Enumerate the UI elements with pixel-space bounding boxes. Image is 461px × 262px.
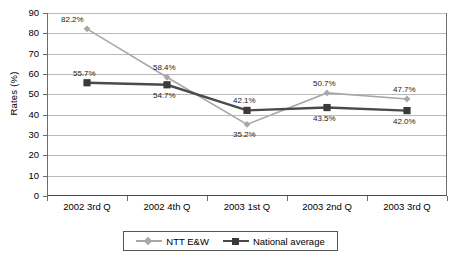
- legend-item-national-average[interactable]: National average: [223, 236, 325, 247]
- data-label: 42.0%: [393, 118, 416, 126]
- chart-legend: NTT E&W National average: [123, 231, 338, 251]
- x-axis-tick-label: 2003 2nd Q: [287, 201, 367, 212]
- x-axis-tick-label: 2002 3rd Q: [47, 201, 127, 212]
- line-chart: Rates (%) NTT E&W National average 01020…: [0, 0, 461, 262]
- y-axis-tick-label: 80: [13, 28, 39, 38]
- y-axis-tick-label: 20: [13, 150, 39, 160]
- y-axis-tick-mark: [43, 115, 47, 116]
- legend-item-ntt-ew[interactable]: NTT E&W: [136, 236, 209, 247]
- data-label: 47.7%: [393, 86, 416, 94]
- y-axis-tick-mark: [43, 155, 47, 156]
- y-axis-tick-mark: [43, 33, 47, 34]
- y-axis-tick-mark: [43, 74, 47, 75]
- gridline: [48, 74, 446, 75]
- y-axis-tick-mark: [43, 94, 47, 95]
- gridline: [48, 176, 446, 177]
- y-axis-tick-label: 30: [13, 130, 39, 140]
- y-axis-tick-label: 10: [13, 171, 39, 181]
- x-axis-tick-label: 2002 4th Q: [127, 201, 207, 212]
- y-axis-tick-mark: [43, 135, 47, 136]
- y-axis-tick-label: 70: [13, 49, 39, 59]
- gridline: [48, 13, 446, 14]
- gridline: [48, 155, 446, 156]
- y-axis-tick-label: 40: [13, 110, 39, 120]
- y-axis-tick-label: 90: [13, 8, 39, 18]
- y-axis-tick-label: 0: [13, 191, 39, 201]
- x-axis-tick-mark: [447, 196, 448, 201]
- data-label: 82.2%: [61, 16, 84, 24]
- gridline: [48, 54, 446, 55]
- gridline: [48, 33, 446, 34]
- data-label: 55.7%: [73, 70, 96, 78]
- gridline: [48, 115, 446, 116]
- gridline: [48, 94, 446, 95]
- data-label: 58.4%: [153, 64, 176, 72]
- square-marker-icon: [223, 236, 249, 246]
- x-axis-tick-label: 2003 1st Q: [207, 201, 287, 212]
- x-axis-tick-label: 2003 3rd Q: [367, 201, 447, 212]
- data-label: 54.7%: [153, 92, 176, 100]
- y-axis-tick-label: 60: [13, 69, 39, 79]
- data-label: 42.1%: [233, 97, 256, 105]
- y-axis-tick-mark: [43, 13, 47, 14]
- data-label: 50.7%: [313, 80, 336, 88]
- legend-label-national-average: National average: [253, 236, 325, 247]
- data-label: 43.5%: [313, 115, 336, 123]
- y-axis-tick-mark: [43, 176, 47, 177]
- data-label: 35.2%: [233, 131, 256, 139]
- diamond-marker-icon: [136, 236, 162, 246]
- y-axis-tick-mark: [43, 54, 47, 55]
- legend-label-ntt-ew: NTT E&W: [166, 236, 209, 247]
- y-axis-tick-label: 50: [13, 89, 39, 99]
